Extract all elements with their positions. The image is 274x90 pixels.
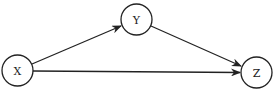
- edge-x-to-y: [32, 26, 121, 64]
- causal-diagram: X Y Z: [0, 0, 274, 90]
- edge-x-to-z: [33, 71, 240, 73]
- node-x-label: X: [14, 65, 22, 78]
- node-z-label: Z: [253, 67, 261, 80]
- node-z: Z: [241, 57, 272, 88]
- node-y: Y: [121, 4, 152, 35]
- node-x: X: [2, 55, 33, 86]
- node-y-label: Y: [132, 14, 141, 27]
- edge-y-to-z: [151, 26, 241, 66]
- diagram-svg: X Y Z: [0, 0, 274, 90]
